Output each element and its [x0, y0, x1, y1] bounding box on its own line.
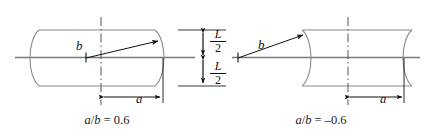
upper-half-length-denominator: 2: [210, 42, 226, 55]
left-caption-equals: =: [101, 113, 114, 127]
lower-half-length-denominator: 2: [210, 74, 226, 87]
left-caption-value: 0.6: [114, 113, 130, 127]
right-radius-label: b: [258, 37, 265, 53]
technical-diagram: b b a a L 2 L 2 a/b = 0.6 a/b = –0.6: [0, 0, 428, 140]
right-panel-caption: a/b = –0.6: [214, 113, 428, 128]
lower-half-length-label: L 2: [210, 60, 226, 86]
left-radius-leader-line[interactable]: [86, 41, 158, 58]
lower-half-length-numerator: L: [210, 60, 226, 74]
left-radius-label: b: [76, 38, 83, 54]
left-panel-caption: a/b = 0.6: [0, 113, 214, 128]
right-hourglass-group: [232, 17, 420, 105]
upper-half-length-label: L 2: [210, 28, 226, 54]
left-barrel-group: [15, 17, 195, 105]
right-radius-leader-line[interactable]: [238, 35, 303, 58]
left-dimension-label: a: [136, 92, 142, 107]
right-dimension-label: a: [380, 92, 386, 107]
right-caption-value: –0.6: [325, 113, 347, 127]
upper-half-length-numerator: L: [210, 28, 226, 42]
right-caption-equals: =: [311, 113, 324, 127]
